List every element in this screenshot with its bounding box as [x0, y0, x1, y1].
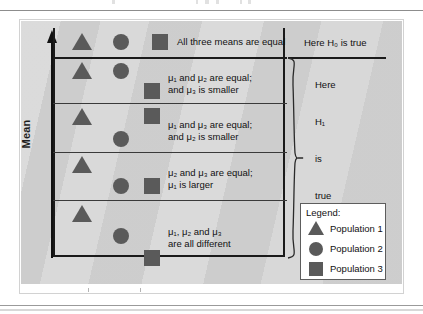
null-hypothesis-label: Here H₀ is true: [304, 37, 367, 48]
legend-label-population-1: Population 1: [330, 223, 383, 234]
brace-label-here: Here: [315, 79, 336, 90]
circle-icon: [309, 242, 323, 256]
row-description-3-line-2: and μ₂ is smaller: [168, 131, 252, 143]
symbol-triangle-row-4: [72, 156, 92, 173]
symbol-circle-row-5: [113, 228, 129, 244]
legend-label-population-3: Population 3: [330, 263, 383, 274]
scan-artifact-tick-right: [140, 288, 141, 292]
page-divider-bottom-shadow: [0, 309, 423, 311]
symbol-square-row-3: [144, 108, 160, 124]
mean-axis-label: Mean: [20, 104, 32, 164]
page-divider-top: [0, 10, 423, 11]
page-divider-bottom: [0, 305, 423, 306]
legend-box: Legend: Population 1 Population 2 Popula…: [300, 203, 386, 280]
row-description-2-line-1: μ₁ and μ₂ are equal;: [168, 72, 252, 84]
symbol-triangle-row-2: [72, 62, 92, 79]
row-description-5-line-1: μ₁, μ₂ and μ₃: [168, 226, 231, 238]
square-icon: [309, 262, 323, 276]
scan-artifact-tick-left: [88, 288, 89, 292]
row-description-3-line-1: μ₁ and μ₃ are equal;: [168, 119, 252, 131]
row-separator-4: [53, 200, 287, 201]
row-description-5: μ₁, μ₂ and μ₃ are all different: [168, 226, 231, 249]
row-description-2-line-2: and μ₃ is smaller: [168, 84, 252, 96]
row-separator-2: [53, 103, 287, 104]
symbol-circle-row-3: [113, 131, 129, 147]
symbol-circle-row-4: [113, 178, 129, 194]
symbol-circle-row-2: [113, 63, 129, 79]
symbol-circle-row-1: [113, 34, 129, 50]
symbol-triangle-row-1: [72, 33, 92, 50]
row-description-1: All three means are equal: [177, 36, 285, 48]
row-description-2: μ₁ and μ₂ are equal; and μ₃ is smaller: [168, 72, 252, 95]
row-description-1-line-1: All three means are equal: [177, 36, 285, 48]
row-description-4-line-1: μ₂ and μ₃ are equal;: [168, 167, 253, 179]
symbol-square-row-4: [144, 178, 160, 194]
symbol-square-row-1: [152, 34, 168, 50]
row-description-4-line-2: μ₁ is larger: [168, 179, 253, 191]
brace-label-h1: H₁: [315, 116, 325, 127]
row-description-4: μ₂ and μ₃ are equal; μ₁ is larger: [168, 167, 253, 190]
row-description-3: μ₁ and μ₃ are equal; and μ₂ is smaller: [168, 119, 252, 142]
scan-artifact-top: [0, 0, 423, 10]
row-description-5-line-2: are all different: [168, 238, 231, 250]
brace-label-is: is: [315, 153, 322, 164]
symbol-triangle-row-5: [72, 205, 92, 222]
symbol-square-row-5: [144, 250, 160, 266]
legend-title: Legend:: [306, 207, 340, 218]
legend-label-population-2: Population 2: [330, 243, 383, 254]
symbol-triangle-row-3: [72, 108, 92, 125]
brace-label-true: true: [315, 190, 331, 201]
row-separator-1: [53, 57, 287, 59]
symbol-square-row-2: [144, 83, 160, 99]
triangle-icon: [308, 221, 324, 235]
row-separator-3: [53, 152, 287, 153]
